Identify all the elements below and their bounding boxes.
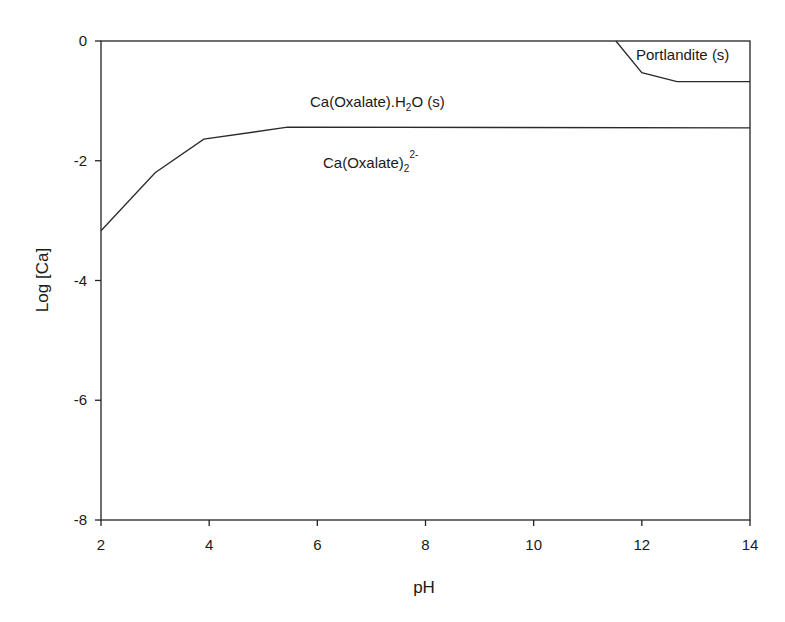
x-tick-label: 6: [313, 536, 321, 553]
x-tick-label: 14: [742, 536, 759, 553]
oxalate-aq-main: Ca(Oxalate): [323, 154, 404, 171]
oxalate-solid-main: Ca(Oxalate).H: [310, 93, 406, 110]
oxalate-aq-superscript: 2-: [409, 149, 418, 160]
x-tick-label: 4: [205, 536, 213, 553]
series-lines: [101, 41, 750, 231]
y-tick-label: -8: [74, 511, 87, 528]
x-tick-label: 12: [633, 536, 650, 553]
annotation-oxalate-solid: Ca(Oxalate).H2O (s): [310, 93, 445, 113]
chart: 24681012140-2-4-6-8 Portlandite (s) Ca(O…: [0, 0, 785, 622]
annotation-oxalate-aqueous: Ca(Oxalate)22-: [323, 149, 418, 174]
annotation-portlandite: Portlandite (s): [636, 46, 729, 63]
y-axis-title: Log [Ca]: [33, 248, 52, 312]
chart-canvas: 24681012140-2-4-6-8 Portlandite (s) Ca(O…: [0, 0, 785, 622]
y-tick-label: 0: [79, 32, 87, 49]
oxalate-solid-tail: O (s): [411, 93, 444, 110]
x-axis-title: pH: [413, 578, 435, 597]
oxalate-boundary-line: [101, 127, 750, 231]
y-tick-label: -2: [74, 152, 87, 169]
plot-frame: [101, 41, 750, 520]
axes: 24681012140-2-4-6-8: [74, 32, 759, 553]
x-tick-label: 8: [421, 536, 429, 553]
x-tick-label: 2: [97, 536, 105, 553]
y-tick-label: -4: [74, 272, 87, 289]
oxalate-aq-subscript: 2: [404, 163, 410, 174]
x-tick-label: 10: [525, 536, 542, 553]
y-tick-label: -6: [74, 391, 87, 408]
